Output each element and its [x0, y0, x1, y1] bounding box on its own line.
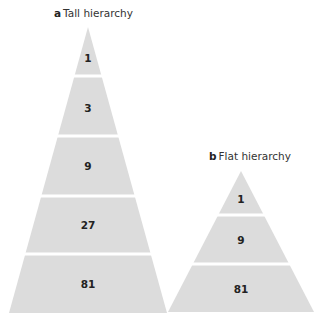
panel-letter: a	[54, 7, 61, 19]
tall-level-label: 27	[81, 219, 96, 231]
tall-level-label: 9	[84, 160, 91, 172]
flat-level-label: 9	[237, 234, 244, 246]
title-text: Tall hierarchy	[63, 7, 133, 19]
flat-level-label: 81	[234, 283, 249, 295]
tall-level-label: 3	[84, 102, 91, 114]
tall-level-label: 1	[84, 52, 91, 64]
flat-hierarchy-title: bFlat hierarchy	[209, 150, 291, 162]
tall-hierarchy-title: aTall hierarchy	[54, 7, 133, 19]
title-text: Flat hierarchy	[219, 150, 291, 162]
flat-level-label: 1	[237, 193, 244, 205]
tall-level-label: 81	[81, 278, 96, 290]
panel-letter: b	[209, 150, 217, 162]
